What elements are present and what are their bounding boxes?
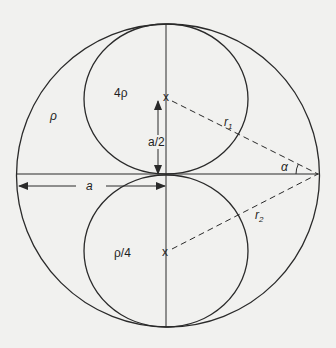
- r2-label: r2: [255, 208, 264, 224]
- lower-center-mark: x: [162, 245, 168, 259]
- r1-label: r1: [224, 115, 232, 131]
- r2-dashed-line: [172, 174, 318, 249]
- upper-density-label: 4ρ: [114, 86, 128, 100]
- alpha-label: α: [281, 160, 289, 174]
- half-a-label: a/2: [148, 135, 165, 149]
- a-label: a: [86, 179, 93, 193]
- sphere-diagram: x x ρ 4ρ ρ/4 a/2 a r1 r2 α: [0, 0, 336, 348]
- r1-dashed-line: [172, 101, 318, 174]
- upper-center-mark: x: [163, 90, 169, 104]
- outer-density-label: ρ: [49, 109, 57, 123]
- lower-density-label: ρ/4: [114, 246, 131, 260]
- alpha-angle-arc: [296, 164, 298, 174]
